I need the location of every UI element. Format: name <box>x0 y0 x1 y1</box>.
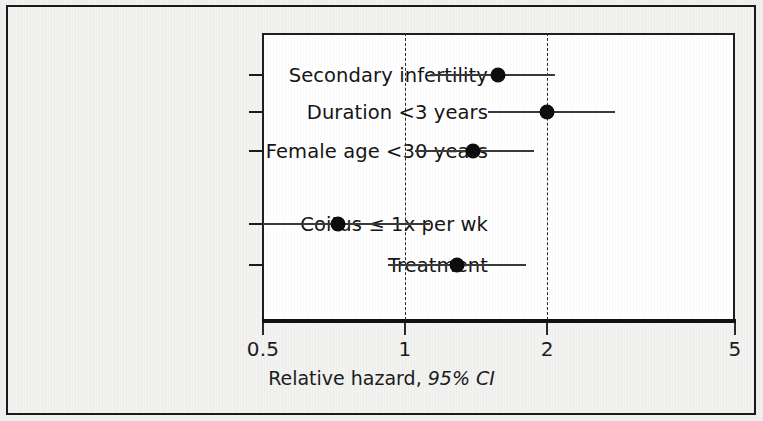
row-tick-treatment <box>249 264 262 266</box>
estimate-point-female-age-30-years <box>465 144 480 159</box>
x-axis-title-main: Relative hazard, <box>268 367 422 389</box>
row-tick-duration-3-years <box>249 111 262 113</box>
estimate-point-treatment <box>450 258 465 273</box>
x-tick-label-1: 1 <box>399 337 412 361</box>
x-axis-line <box>262 319 736 323</box>
reference-line-2 <box>547 33 548 320</box>
x-tick-0.5 <box>262 323 264 335</box>
forest-plot-figure: 0.5125 Secondary infertilityDuration <3 … <box>0 0 763 421</box>
x-tick-1 <box>404 323 406 335</box>
x-tick-label-0.5: 0.5 <box>247 337 279 361</box>
row-tick-secondary-infertility <box>249 74 262 76</box>
ci-line-coitus-1x-per-wk <box>263 223 430 225</box>
row-tick-coitus-1x-per-wk <box>249 223 262 225</box>
x-tick-5 <box>734 323 736 335</box>
row-tick-female-age-30-years <box>249 150 262 152</box>
estimate-point-secondary-infertility <box>490 68 505 83</box>
x-axis-title: Relative hazard, 95% CI <box>0 367 763 389</box>
estimate-point-coitus-1x-per-wk <box>330 217 345 232</box>
row-label-duration-3-years: Duration <3 years <box>307 101 488 124</box>
x-tick-label-5: 5 <box>729 337 742 361</box>
estimate-point-duration-3-years <box>540 105 555 120</box>
x-axis-title-italic: 95% CI <box>428 367 495 389</box>
x-tick-2 <box>546 323 548 335</box>
x-tick-label-2: 2 <box>541 337 554 361</box>
